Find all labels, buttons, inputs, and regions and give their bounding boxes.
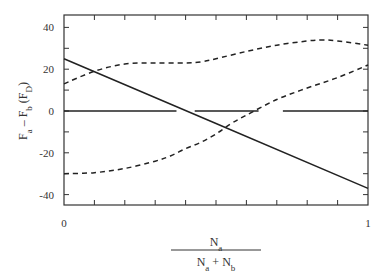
y-tick-label: -40 [39,189,54,201]
lower-dashed-line [64,65,368,174]
y-tick-label: -20 [39,147,54,159]
plot-border [64,15,368,205]
x-axis-label: NaNa + Nb [171,235,261,273]
chart: 40200-20-4001 Fa – Fb (FD) NaNa + Nb [0,0,382,276]
x-tick-label: 0 [61,217,67,229]
plot-frame [64,15,368,205]
x-tick-label: 1 [365,217,371,229]
y-axis-label: Fa – Fb (FD) [16,82,34,140]
x-label-denominator: Na + Nb [197,255,236,273]
y-tick-label: 20 [43,63,55,75]
solid-linear-line [64,59,368,189]
y-tick-label: 40 [43,21,55,33]
axis-ticks [64,15,368,205]
upper-dashed-line [64,40,368,84]
tick-labels: 40200-20-4001 [39,21,370,229]
data-series [64,40,368,188]
y-tick-label: 0 [49,105,55,117]
y-axis-label-text: Fa – Fb (FD) [16,82,34,140]
